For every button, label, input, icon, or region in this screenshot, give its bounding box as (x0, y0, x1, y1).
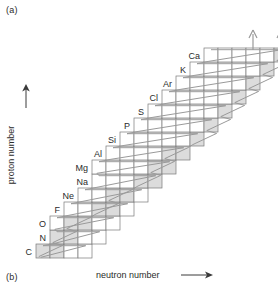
element-row-label: N (40, 233, 47, 243)
element-row-label: Si (108, 135, 116, 145)
y-axis-arrow (22, 84, 30, 108)
element-row-label: S (138, 107, 144, 117)
nuclide-grid-plot: CNOFNeNaMgAlSiPSClArKCa (0, 0, 278, 292)
x-axis-arrow (181, 272, 213, 279)
x-axis-title: neutron number (96, 270, 160, 280)
element-row-label: Cl (150, 93, 159, 103)
up-arrow-icon (277, 30, 278, 50)
up-arrow-icon (249, 30, 257, 50)
element-row-label: Mg (75, 163, 88, 173)
element-row-label: Ar (163, 79, 172, 89)
y-axis-title: proton number (6, 100, 16, 210)
element-row-label: P (124, 121, 130, 131)
element-row-label: O (39, 219, 46, 229)
element-row-label: F (55, 205, 61, 215)
element-row-label: Ne (62, 191, 74, 201)
element-row-label: Ca (188, 51, 200, 61)
top-arrows-layer (249, 30, 278, 50)
element-row-label: Na (76, 177, 88, 187)
element-row-label: K (180, 65, 186, 75)
element-row-label: Al (94, 149, 102, 159)
element-row-label: C (26, 247, 33, 257)
nuclide-chart-figure: (a) (b) CNOFNeNaMgAlSiPSClArKCa proton n… (0, 0, 278, 292)
